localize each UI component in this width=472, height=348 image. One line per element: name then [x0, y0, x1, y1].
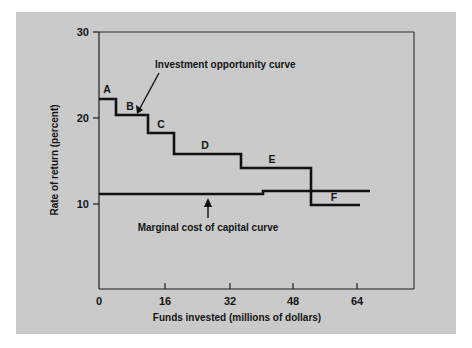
- step-label-b: B: [126, 100, 134, 112]
- annotation-mcc-text: Marginal cost of capital curve: [138, 222, 279, 233]
- annotation-ioc-arrowhead: [136, 105, 143, 114]
- x-axis-ticks: [165, 283, 357, 289]
- y-tick-label-10: 10: [77, 198, 89, 210]
- annotation-investment-opportunity: Investment opportunity curve: [136, 59, 296, 114]
- plot-frame: [99, 32, 414, 289]
- x-tick-label-16: 16: [159, 295, 171, 307]
- y-axis-title: Rate of return (percent): [49, 104, 60, 215]
- figure-root: 30 20 10 0 16 32 48 64 Funds invested (m…: [0, 0, 472, 348]
- annotation-mcc-arrowhead: [204, 198, 212, 207]
- step-label-e: E: [268, 153, 275, 165]
- annotation-ioc-leader: [139, 73, 159, 110]
- x-tick-label-0: 0: [96, 295, 102, 307]
- annotation-ioc-text: Investment opportunity curve: [155, 59, 296, 70]
- step-label-a: A: [103, 83, 111, 95]
- y-tick-label-30: 30: [77, 26, 89, 38]
- x-tick-label-48: 48: [287, 295, 299, 307]
- x-tick-label-64: 64: [351, 295, 364, 307]
- annotation-marginal-cost: Marginal cost of capital curve: [138, 198, 279, 233]
- investment-opportunity-curve: [99, 99, 360, 205]
- chart-canvas: 30 20 10 0 16 32 48 64 Funds invested (m…: [0, 0, 472, 348]
- y-axis-ticks: [93, 32, 99, 204]
- marginal-cost-of-capital-curve: [99, 191, 370, 194]
- x-axis-title: Funds invested (millions of dollars): [153, 312, 321, 323]
- y-tick-label-20: 20: [77, 112, 89, 124]
- step-label-f: F: [331, 191, 338, 203]
- step-label-d: D: [201, 139, 209, 151]
- step-label-c: C: [157, 118, 165, 130]
- x-tick-label-32: 32: [224, 295, 236, 307]
